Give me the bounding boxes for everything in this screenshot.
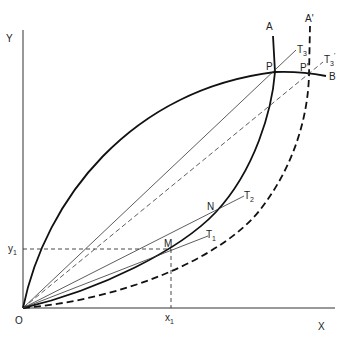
curve-B-label: B <box>329 71 336 82</box>
curve-B <box>23 72 326 308</box>
point-P-label: P <box>266 61 273 72</box>
point-N-label: N <box>207 201 214 212</box>
tangent-T1-label: T1 <box>206 229 216 242</box>
origin-label: O <box>15 315 23 326</box>
y-axis-label: Y <box>6 33 13 44</box>
x-axis-label: X <box>318 321 325 332</box>
curve-A-label: A <box>266 21 273 32</box>
y1-label: y1 <box>8 243 17 256</box>
tangent-T3-label: T3 <box>297 44 307 57</box>
diagram-canvas: Y X O x1 y1 A A' B P P' N M T3 T3' T2 T1 <box>0 0 346 339</box>
curve-A-prime-label: A' <box>305 13 314 24</box>
ray-T3 <box>23 50 296 308</box>
tangent-T2-label: T2 <box>244 190 254 203</box>
tangent-T3-prime-label: T3' <box>324 52 335 67</box>
point-M-label: M <box>164 238 172 249</box>
ray-T2 <box>23 196 244 308</box>
point-P-prime-label: P' <box>300 62 309 73</box>
ray-T1 <box>23 236 208 308</box>
x1-label: x1 <box>165 312 174 325</box>
curve-A <box>23 36 275 308</box>
